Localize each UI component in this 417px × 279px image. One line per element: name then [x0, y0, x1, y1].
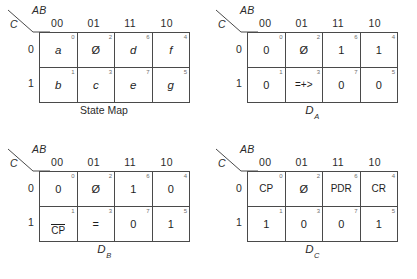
- minterm-index: 7: [146, 207, 149, 215]
- row-header-1: 1: [24, 66, 38, 100]
- minterm-index: 1: [71, 68, 74, 76]
- row-header-0: 0: [24, 32, 38, 66]
- column-headers: 00 01 11 10: [39, 17, 185, 29]
- kmap-cell[interactable]: 41: [360, 33, 398, 68]
- row-header-0: 0: [232, 171, 246, 205]
- cell-value: CP: [51, 224, 65, 236]
- column-header-01: 01: [284, 17, 321, 29]
- kmap-table: 0CP 2Ø 6PDR 4CR 11 30 70 51: [247, 171, 398, 242]
- kmap-cell[interactable]: 2Ø: [77, 33, 115, 68]
- minterm-index: 0: [279, 33, 282, 41]
- minterm-index: 4: [184, 172, 187, 180]
- minterm-index: 6: [146, 172, 149, 180]
- map-caption: State Map: [0, 104, 208, 116]
- kmap-cell[interactable]: 3c: [77, 68, 115, 103]
- minterm-index: 6: [354, 172, 357, 180]
- kmap-cell[interactable]: 70: [323, 207, 361, 242]
- kmap-cell[interactable]: 61: [323, 33, 361, 68]
- kmap-cell[interactable]: 7e: [115, 68, 153, 103]
- kmap-cell[interactable]: 0a: [40, 33, 78, 68]
- kmap-cell[interactable]: 2Ø: [285, 33, 323, 68]
- axis-label-columns: AB: [32, 143, 46, 155]
- minterm-index: 6: [354, 33, 357, 41]
- row-header-1: 1: [232, 66, 246, 100]
- minterm-index: 1: [279, 68, 282, 76]
- kmap-cell[interactable]: 2Ø: [77, 172, 115, 207]
- column-header-00: 00: [247, 156, 284, 168]
- map-caption-subscript: B: [106, 251, 111, 260]
- minterm-index: 3: [109, 68, 112, 76]
- minterm-index: 5: [184, 207, 187, 215]
- minterm-index: 2: [109, 172, 112, 180]
- kmap-db: AB C 00 01 11 10 0 1 00 2Ø 61 40 1CP 3= …: [0, 139, 208, 278]
- kmap-cell[interactable]: 40: [152, 172, 190, 207]
- minterm-index: 2: [109, 33, 112, 41]
- kmap-cell[interactable]: 2Ø: [285, 172, 323, 207]
- minterm-index: 1: [279, 207, 282, 215]
- kmap-cell[interactable]: 6d: [115, 33, 153, 68]
- column-header-00: 00: [39, 17, 76, 29]
- minterm-index: 1: [71, 207, 74, 215]
- column-header-11: 11: [112, 156, 149, 168]
- column-header-11: 11: [112, 17, 149, 29]
- kmap-cell[interactable]: 6PDR: [323, 172, 361, 207]
- minterm-index: 4: [184, 33, 187, 41]
- kmap-cell[interactable]: 00: [248, 33, 286, 68]
- kmap-cell[interactable]: 4f: [152, 33, 190, 68]
- minterm-index: 7: [354, 207, 357, 215]
- column-headers: 00 01 11 10: [247, 156, 393, 168]
- kmap-dc: AB C 00 01 11 10 0 1 0CP 2Ø 6PDR 4CR 11 …: [208, 139, 416, 278]
- table-row: 0a 2Ø 6d 4f: [40, 33, 190, 68]
- map-caption-base: D: [305, 243, 313, 255]
- column-header-00: 00: [39, 156, 76, 168]
- minterm-index: 5: [392, 207, 395, 215]
- minterm-index: 2: [317, 33, 320, 41]
- kmap-cell[interactable]: 50: [360, 68, 398, 103]
- column-header-01: 01: [76, 156, 113, 168]
- axis-label-columns: AB: [240, 143, 254, 155]
- karnaugh-map-figure: AB C 00 01 11 10 0 1 0a 2Ø 6d 4f 1b 3c 7…: [0, 0, 417, 279]
- kmap-cell[interactable]: 11: [248, 207, 286, 242]
- minterm-index: 5: [184, 68, 187, 76]
- kmap-cell[interactable]: 1CP: [40, 207, 78, 242]
- map-caption-base: D: [97, 243, 105, 255]
- map-caption-subscript: C: [314, 251, 319, 260]
- row-header-0: 0: [232, 32, 246, 66]
- minterm-index: 3: [317, 207, 320, 215]
- kmap-cell[interactable]: 00: [40, 172, 78, 207]
- column-header-00: 00: [247, 17, 284, 29]
- kmap-cell[interactable]: 70: [323, 68, 361, 103]
- kmap-cell[interactable]: 4CR: [360, 172, 398, 207]
- row-header-1: 1: [232, 205, 246, 239]
- map-caption: DC: [208, 243, 416, 258]
- kmap-cell[interactable]: 3=: [77, 207, 115, 242]
- row-headers: 0 1: [232, 171, 246, 239]
- minterm-index: 0: [71, 33, 74, 41]
- kmap-cell[interactable]: 30: [285, 207, 323, 242]
- minterm-index: 7: [354, 68, 357, 76]
- map-caption: DB: [0, 243, 208, 258]
- column-header-11: 11: [320, 17, 357, 29]
- kmap-cell[interactable]: 0CP: [248, 172, 286, 207]
- column-header-01: 01: [76, 17, 113, 29]
- axis-label-columns: AB: [240, 4, 254, 16]
- column-headers: 00 01 11 10: [39, 156, 185, 168]
- row-header-1: 1: [24, 205, 38, 239]
- kmap-cell[interactable]: 51: [360, 207, 398, 242]
- column-header-10: 10: [149, 17, 186, 29]
- minterm-index: 4: [392, 33, 395, 41]
- kmap-cell[interactable]: 61: [115, 172, 153, 207]
- minterm-index: 0: [71, 172, 74, 180]
- column-header-10: 10: [149, 156, 186, 168]
- kmap-cell[interactable]: 5g: [152, 68, 190, 103]
- row-headers: 0 1: [24, 171, 38, 239]
- kmap-cell[interactable]: 1b: [40, 68, 78, 103]
- kmap-cell[interactable]: 51: [152, 207, 190, 242]
- kmap-cell[interactable]: 10: [248, 68, 286, 103]
- row-header-0: 0: [24, 171, 38, 205]
- column-headers: 00 01 11 10: [247, 17, 393, 29]
- table-row: 00 2Ø 61 41: [248, 33, 398, 68]
- kmap-cell[interactable]: 3=+>: [285, 68, 323, 103]
- kmap-cell[interactable]: 70: [115, 207, 153, 242]
- table-row: 1CP 3= 70 51: [40, 207, 190, 242]
